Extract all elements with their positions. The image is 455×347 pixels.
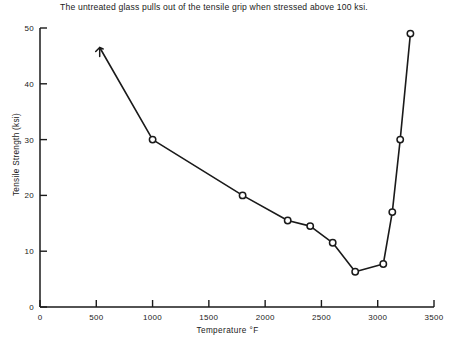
- data-point-marker: [239, 192, 245, 198]
- data-point-marker: [149, 136, 155, 142]
- x-tick-label: 1000: [143, 313, 162, 322]
- chart-annotation-note: The untreated glass pulls out of the ten…: [60, 2, 368, 12]
- y-tick-label: 0: [29, 303, 34, 312]
- x-tick-label: 2000: [256, 313, 275, 322]
- data-point-marker: [407, 30, 413, 36]
- x-tick-label: 500: [89, 313, 103, 322]
- chart-figure: The untreated glass pulls out of the ten…: [0, 0, 455, 347]
- x-axis-label: Temperature °F: [0, 326, 455, 335]
- data-point-marker: [380, 261, 386, 267]
- data-point-marker: [397, 136, 403, 142]
- data-point-marker: [352, 269, 358, 275]
- x-tick-label: 0: [38, 313, 43, 322]
- data-line: [100, 34, 411, 272]
- data-point-marker: [330, 240, 336, 246]
- y-tick-label: 20: [25, 191, 35, 200]
- y-tick-label: 30: [25, 136, 35, 145]
- y-tick-label: 50: [25, 24, 35, 33]
- x-tick-label: 2500: [312, 313, 331, 322]
- data-point-marker: [307, 223, 313, 229]
- y-tick-label: 10: [25, 247, 35, 256]
- data-point-marker: [389, 209, 395, 215]
- plot-area: 050010001500200025003000350001020304050: [0, 0, 455, 347]
- y-tick-label: 40: [25, 80, 35, 89]
- x-tick-label: 3000: [368, 313, 387, 322]
- data-point-marker: [285, 217, 291, 223]
- x-tick-label: 3500: [425, 313, 444, 322]
- y-axis-label: Tensile Strength (ksi): [12, 95, 21, 215]
- x-tick-label: 1500: [199, 313, 218, 322]
